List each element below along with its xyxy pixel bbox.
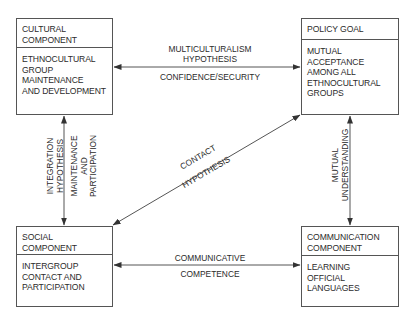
policy-goal-body: MUTUAL ACCEPTANCE AMONG ALL ETHNOCULTURA… — [302, 40, 398, 99]
social-component-title: SOCIAL COMPONENT — [17, 227, 112, 255]
competence-label: COMPETENCE — [150, 269, 270, 279]
cultural-component-box: CULTURAL COMPONENT ETHNOCULTURAL GROUP M… — [16, 18, 113, 115]
confidence-security-label: CONFIDENCE/SECURITY — [150, 72, 270, 82]
cultural-component-title: CULTURAL COMPONENT — [17, 19, 112, 48]
maintenance-participation-label: MAINTENANCE AND PARTICIPATION — [70, 126, 90, 206]
multiculturalism-hypothesis-label: MULTICULTURALISM HYPOTHESIS — [150, 44, 270, 64]
mutual-understanding-label: MUTUAL UNDERSTANDING — [331, 125, 351, 205]
understanding-label: UNDERSTANDING — [340, 129, 350, 201]
social-component-box: SOCIAL COMPONENT INTERGROUP CONTACT AND … — [16, 226, 113, 307]
policy-goal-box: POLICY GOAL MUTUAL ACCEPTANCE AMONG ALL … — [301, 18, 399, 115]
policy-goal-title: POLICY GOAL — [302, 19, 398, 40]
communicative-label: COMMUNICATIVE — [150, 253, 270, 263]
cultural-component-body: ETHNOCULTURAL GROUP MAINTENANCE AND DEVE… — [17, 48, 112, 96]
communication-component-title: COMMUNICATION COMPONENT — [302, 227, 398, 256]
mutual-label: MUTUAL — [330, 148, 340, 182]
communication-component-body: LEARNING OFFICIAL LANGUAGES — [302, 256, 398, 294]
social-component-body: INTERGROUP CONTACT AND PARTICIPATION — [17, 255, 112, 293]
communication-component-box: COMMUNICATION COMPONENT LEARNING OFFICIA… — [301, 226, 399, 307]
integration-hypothesis-label: INTEGRATION HYPOTHESIS — [46, 126, 66, 206]
